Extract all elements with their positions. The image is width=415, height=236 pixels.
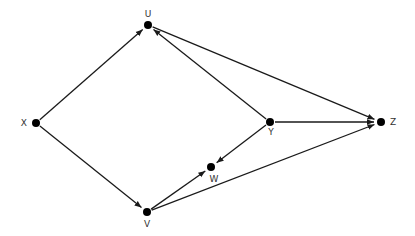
node-v (143, 208, 151, 216)
edge-x-to-u (40, 30, 143, 120)
edge-v-to-z (152, 125, 375, 211)
edge-x-to-v (40, 126, 142, 208)
node-label-y: Y (267, 127, 274, 137)
node-label-u: U (145, 9, 152, 19)
edge-y-to-w (217, 125, 266, 163)
node-label-x: X (21, 118, 27, 128)
node-y (266, 118, 274, 126)
node-u (144, 21, 152, 29)
dag-diagram: UXVWYZ (0, 0, 415, 236)
node-label-z: Z (390, 117, 396, 127)
edge-y-to-u (154, 29, 267, 119)
node-label-v: V (144, 219, 151, 229)
node-x (32, 119, 40, 127)
edge-v-to-w (151, 171, 205, 209)
labels-layer: UXVWYZ (21, 9, 396, 229)
edges-layer (40, 27, 375, 210)
node-label-w: W (210, 174, 219, 184)
node-w (207, 163, 215, 171)
node-z (377, 118, 385, 126)
edge-u-to-z (153, 27, 375, 119)
